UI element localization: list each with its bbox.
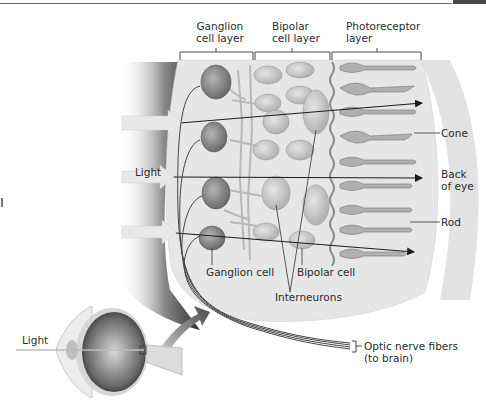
label-cone: Cone xyxy=(441,127,468,139)
header-photoreceptor-layer: Photoreceptor layer xyxy=(346,20,420,44)
header-ganglion-layer: Ganglion cell layer xyxy=(196,20,244,44)
header-photoreceptor-line1: Photoreceptor xyxy=(346,20,420,32)
header-bipolar-line2: cell layer xyxy=(272,32,320,44)
label-optic-line1: Optic nerve fibers xyxy=(364,340,458,352)
header-bipolar-layer: Bipolar cell layer xyxy=(272,20,320,44)
header-ganglion-line2: cell layer xyxy=(196,32,244,44)
label-back-of-eye: Back of eye xyxy=(441,168,474,192)
header-photoreceptor-line2: layer xyxy=(346,32,420,44)
header-bipolar-line1: Bipolar xyxy=(272,20,320,32)
label-ganglion-cell: Ganglion cell xyxy=(206,266,274,278)
label-back-line2: of eye xyxy=(441,180,474,192)
label-rod: Rod xyxy=(441,216,461,228)
label-bipolar-cell: Bipolar cell xyxy=(297,266,355,278)
label-light-eye: Light xyxy=(22,334,48,346)
optic-nerve-bracket xyxy=(352,341,362,352)
label-optic-line2: (to brain) xyxy=(364,352,458,364)
layer-brackets xyxy=(180,48,421,60)
label-light-retina: Light xyxy=(135,166,161,178)
header-ganglion-line1: Ganglion xyxy=(196,20,244,32)
eyeball-illustration xyxy=(16,306,182,398)
label-interneurons: Interneurons xyxy=(275,291,342,303)
label-optic-nerve: Optic nerve fibers (to brain) xyxy=(364,340,458,364)
label-back-line1: Back xyxy=(441,168,474,180)
